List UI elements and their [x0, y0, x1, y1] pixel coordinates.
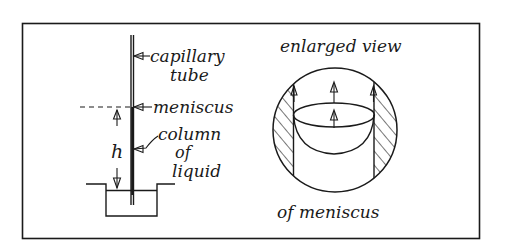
column-label: column — [158, 124, 221, 144]
height-label: h — [111, 140, 123, 162]
column-label-line2: of — [175, 143, 194, 162]
capillary-apparatus: h capillary tube meniscus column of liqu… — [80, 35, 234, 216]
enlarged-view-caption: of meniscus — [277, 202, 380, 222]
surface-tension-arrows — [291, 82, 377, 128]
enlarged-meniscus-view: enlarged view of meniscus — [270, 36, 402, 222]
column-label-line3: liquid — [172, 161, 221, 181]
capillary-diagram: h capillary tube meniscus column of liqu… — [0, 0, 505, 244]
height-dimension: h — [111, 110, 123, 188]
capillary-tube-label-line2: tube — [170, 65, 209, 85]
meniscus-label: meniscus — [153, 97, 234, 117]
tube-wall-right-hatched — [374, 60, 400, 200]
capillary-tube-label: capillary — [150, 46, 225, 66]
enlarged-view-title: enlarged view — [280, 36, 402, 56]
diagram-frame — [23, 24, 480, 239]
